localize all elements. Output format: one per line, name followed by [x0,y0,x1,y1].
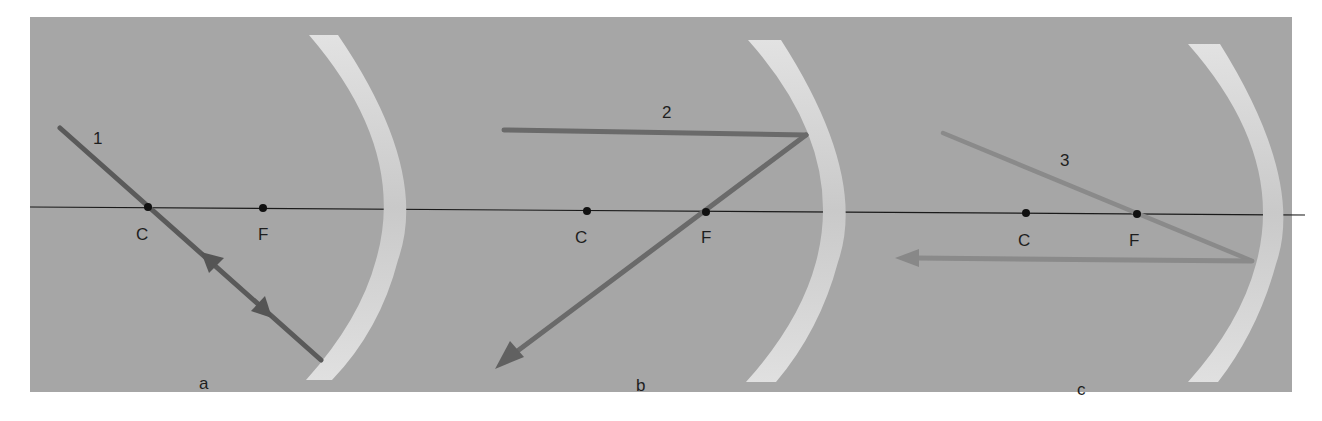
ray-3-reflected [915,258,1252,261]
label-c: C [136,225,148,244]
label-f: F [1129,231,1139,250]
ray-label: 2 [662,103,671,122]
diagram-background [30,17,1292,392]
panel-caption: b [636,376,645,395]
label-c: C [575,228,587,247]
label-f: F [258,225,268,244]
point-f [702,208,710,216]
label-c: C [1018,231,1030,250]
ray-label: 3 [1060,151,1069,170]
point-c [1022,209,1030,217]
point-c [144,203,152,211]
point-c [583,207,591,215]
ray-label: 1 [93,129,102,148]
point-f [259,204,267,212]
panel-caption: c [1077,380,1086,399]
figure: C F 1 a C F 2 b C F 3 c [0,0,1322,421]
panel-caption: a [199,374,209,393]
label-f: F [701,228,711,247]
point-f [1133,210,1141,218]
